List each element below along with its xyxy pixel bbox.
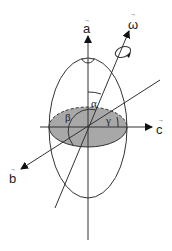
axis-b-vector-mark: → (10, 166, 16, 172)
angle-gamma-label: γ (105, 114, 111, 126)
angle-beta-label: β (65, 111, 71, 123)
ellipsoid-axes-diagram: a → ω → c → b → α β γ (0, 0, 172, 251)
rotation-arrow-icon (114, 45, 132, 60)
angle-alpha-label: α (91, 97, 97, 109)
axis-a-vector-mark: → (84, 17, 90, 23)
axis-b (21, 80, 160, 169)
axis-a-label: a (83, 21, 91, 36)
axis-b-label: b (9, 171, 16, 186)
axis-c-label: c (156, 122, 163, 137)
axis-c-vector-mark: → (158, 117, 164, 123)
axis-omega-vector-mark: → (130, 11, 136, 17)
axis-omega-label: ω (128, 17, 138, 32)
angle-alpha-arc (88, 92, 101, 94)
